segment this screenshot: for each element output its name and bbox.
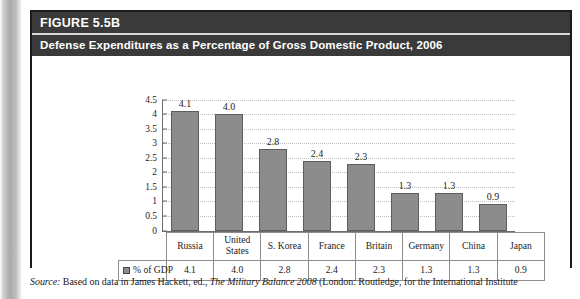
source-work-title: The Military Balance 2008 <box>210 276 317 287</box>
table-category-cell: Germany <box>403 232 450 260</box>
bar <box>303 161 331 231</box>
table-category-cell: France <box>308 232 355 260</box>
source-prefix: Source: <box>30 276 60 287</box>
bar-cell: 1.3 <box>427 100 471 231</box>
bar-cell: 2.4 <box>295 100 339 231</box>
table-category-cell: S. Korea <box>261 232 308 260</box>
y-tick-label: 4 <box>152 109 157 119</box>
y-tick-label: 0.5 <box>145 211 157 221</box>
bar <box>435 193 463 231</box>
bar-value-label: 1.3 <box>443 180 456 191</box>
bar-cell: 4.1 <box>163 100 207 231</box>
table-category-cell: China <box>450 232 497 260</box>
source-body-2: (London: Routledge, for the Internationa… <box>317 276 518 287</box>
source-body-1: Based on data in James Hackett, ed., <box>60 276 209 287</box>
y-tick-label: 1 <box>152 196 157 206</box>
source-caption: Source: Based on data in James Hackett, … <box>30 276 578 287</box>
y-tick-label: 2.5 <box>145 153 157 163</box>
table-corner-cell <box>119 232 167 260</box>
bar-series: 4.14.02.82.42.31.31.30.9 <box>163 100 515 231</box>
figure-number-band: FIGURE 5.5B <box>32 12 570 33</box>
legend-swatch-icon <box>123 267 130 274</box>
y-axis: 4.543.532.521.510.50 <box>130 100 162 231</box>
chart-body: 4.543.532.521.510.50 4.14.02.82.42.31.31… <box>32 56 570 268</box>
table-category-cell: Russia <box>166 232 213 260</box>
figure-box: FIGURE 5.5B Defense Expenditures as a Pe… <box>30 10 572 268</box>
bar-cell: 2.3 <box>339 100 383 231</box>
y-tick-label: 4.5 <box>145 95 157 105</box>
y-tick-label: 1.5 <box>145 182 157 192</box>
bar-value-label: 2.4 <box>311 148 324 159</box>
bar-value-label: 2.3 <box>355 151 368 162</box>
table-header-row: RussiaUnited StatesS. KoreaFranceBritain… <box>119 232 545 260</box>
bar-value-label: 1.3 <box>399 180 412 191</box>
bar <box>347 164 375 231</box>
bar-value-label: 2.8 <box>267 136 280 147</box>
y-tick-label: 3.5 <box>145 124 157 134</box>
bar <box>259 149 287 231</box>
table-category-cell: United States <box>214 232 261 260</box>
bar <box>479 204 507 230</box>
bar <box>171 111 199 230</box>
figure-title-text: Defense Expenditures as a Percentage of … <box>40 39 442 51</box>
bar-value-label: 4.0 <box>223 101 236 112</box>
table-category-cell: Japan <box>497 232 544 260</box>
page-edge-shadow <box>0 0 22 299</box>
bar-cell: 4.0 <box>207 100 251 231</box>
bar-value-label: 0.9 <box>487 191 500 202</box>
legend-series-label: % of GDP <box>133 265 173 276</box>
y-tick-label: 3 <box>152 138 157 148</box>
bar-value-label: 4.1 <box>179 98 192 109</box>
y-tick-label: 2 <box>152 167 157 177</box>
figure-title-band: Defense Expenditures as a Percentage of … <box>32 35 570 56</box>
bar-cell: 0.9 <box>471 100 515 231</box>
bar-cell: 2.8 <box>251 100 295 231</box>
figure-number-label: FIGURE 5.5B <box>40 16 120 30</box>
bar <box>215 114 243 230</box>
data-table: RussiaUnited StatesS. KoreaFranceBritain… <box>118 232 545 281</box>
table-category-cell: Britain <box>355 232 402 260</box>
bar-cell: 1.3 <box>383 100 427 231</box>
bar <box>391 193 419 231</box>
